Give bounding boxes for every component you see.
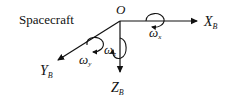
- omega-z-label: ωz: [104, 43, 116, 58]
- body-frame-diagram: Spacecraft O XB YB ZB ωx ωy ωz: [0, 0, 234, 112]
- omega-x-label: ωx: [149, 26, 161, 41]
- diagram-title: Spacecraft: [19, 13, 74, 26]
- z-axis-label: ZB: [111, 81, 124, 97]
- origin-label: O: [116, 3, 125, 16]
- rotation-arrow-y-icon: [87, 37, 104, 52]
- omega-y-label: ωy: [79, 53, 91, 68]
- x-axis-label: XB: [204, 15, 217, 31]
- y-axis-label: YB: [40, 64, 53, 80]
